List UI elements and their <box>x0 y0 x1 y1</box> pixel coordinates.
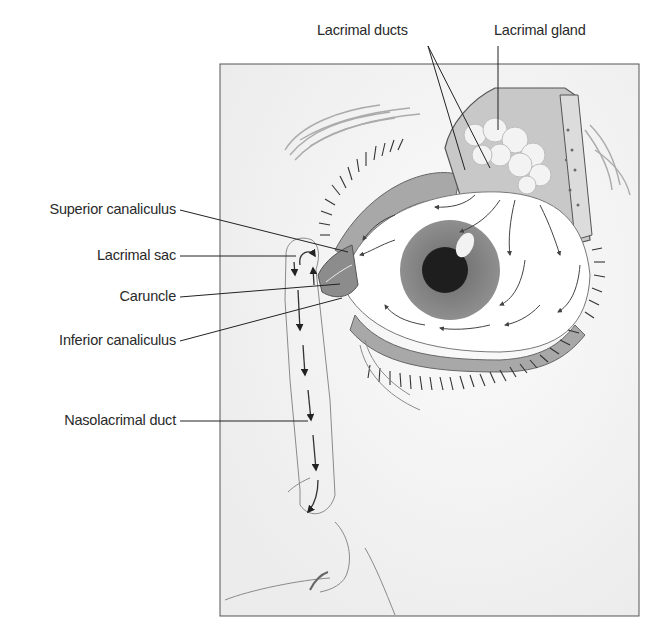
label-caruncle: Caruncle <box>120 288 176 304</box>
label-lacrimal-sac: Lacrimal sac <box>97 247 176 263</box>
label-superior-canaliculus: Superior canaliculus <box>49 201 176 217</box>
lacrimal-diagram <box>0 0 652 626</box>
label-lacrimal-gland: Lacrimal gland <box>494 22 586 38</box>
label-inferior-canaliculus: Inferior canaliculus <box>59 332 176 348</box>
label-lacrimal-ducts: Lacrimal ducts <box>317 22 408 38</box>
label-nasolacrimal-duct: Nasolacrimal duct <box>64 412 176 428</box>
